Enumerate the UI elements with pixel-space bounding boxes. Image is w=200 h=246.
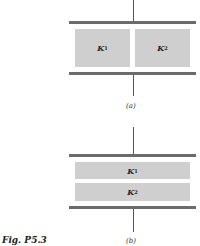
dielectric-symbol: K: [127, 166, 134, 176]
bottom-lead-wire-a: [133, 75, 134, 96]
dielectric-symbol: K: [127, 187, 134, 197]
top-lead-wire-b: [133, 127, 134, 155]
dielectric-symbol: K: [97, 43, 104, 53]
caption-b: (b): [126, 237, 136, 245]
caption-a: (a): [126, 102, 136, 110]
bottom-lead-wire-b: [133, 209, 134, 232]
top-plate-a: [69, 21, 196, 24]
dielectric-k1-b: K1: [75, 162, 190, 179]
dielectric-k1-a: K1: [75, 29, 130, 67]
top-lead-wire-a: [133, 0, 134, 22]
dielectric-subscript: 2: [164, 45, 167, 51]
dielectric-symbol: K: [157, 43, 164, 53]
dielectric-subscript: 1: [134, 168, 137, 174]
top-plate-b: [69, 154, 196, 157]
dielectric-k2-b: K2: [75, 183, 190, 201]
figure-label: Fig. P5.3: [2, 235, 47, 245]
dielectric-subscript: 2: [134, 189, 137, 195]
dielectric-k2-a: K2: [135, 29, 190, 67]
dielectric-subscript: 1: [104, 45, 107, 51]
